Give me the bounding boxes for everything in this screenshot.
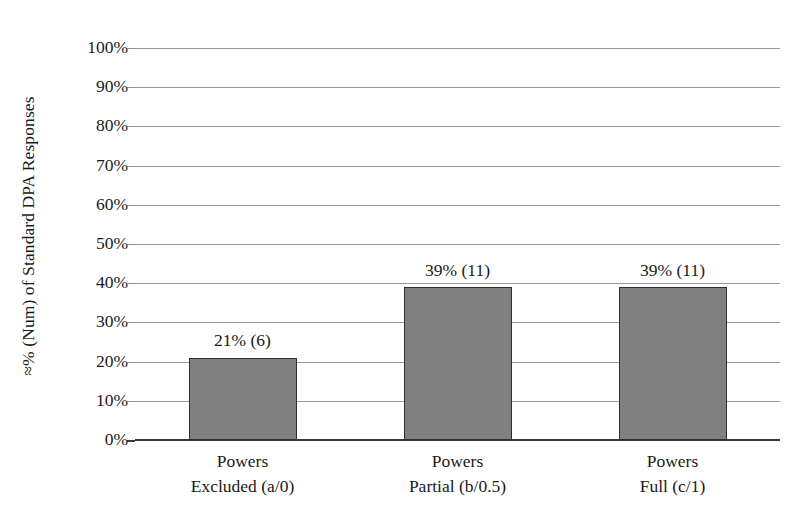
y-axis-tick-mark xyxy=(127,362,135,363)
y-axis-tick-mark xyxy=(127,205,135,206)
x-axis-category-label-line: Powers xyxy=(565,449,780,474)
y-axis-tick-label: 50% xyxy=(58,235,128,253)
x-axis-category-label-line: Powers xyxy=(135,449,350,474)
y-axis-tick-label: 80% xyxy=(58,118,128,136)
x-axis-category-label-line: Full (c/1) xyxy=(565,474,780,499)
y-axis-tick-label: 90% xyxy=(58,78,128,96)
y-axis-tick-label: 20% xyxy=(58,353,128,371)
x-axis-category-label-line: Excluded (a/0) xyxy=(135,474,350,499)
y-axis-tick-mark xyxy=(127,401,135,402)
y-axis-tick-mark xyxy=(127,166,135,167)
y-axis-tick-mark xyxy=(127,244,135,245)
y-axis-tick-label: 100% xyxy=(58,39,128,57)
y-axis-tick-mark xyxy=(127,322,135,323)
y-axis-tick-label: 60% xyxy=(58,196,128,214)
x-axis-category-label: PowersPartial (b/0.5) xyxy=(350,449,565,499)
x-axis-category-label-line: Partial (b/0.5) xyxy=(350,474,565,499)
x-axis-category-label: PowersFull (c/1) xyxy=(565,449,780,499)
y-axis-tick-label: 70% xyxy=(58,157,128,175)
bar[interactable] xyxy=(404,287,512,440)
bar-chart: ≈% (Num) of Standard DPA Responses 100%9… xyxy=(0,0,811,522)
bar-slot: 39% (11) xyxy=(565,48,780,440)
x-axis-category-label: PowersExcluded (a/0) xyxy=(135,449,350,499)
plot-area: 21% (6)39% (11)39% (11) xyxy=(135,48,780,440)
y-axis-tick-label: 0% xyxy=(58,431,128,449)
y-axis-tick-label: 10% xyxy=(58,392,128,410)
x-axis-category-labels: PowersExcluded (a/0)PowersPartial (b/0.5… xyxy=(135,449,780,509)
bar-slot: 39% (11) xyxy=(350,48,565,440)
bar-value-label: 39% (11) xyxy=(425,262,490,280)
y-axis-tick-mark xyxy=(127,126,135,127)
bar[interactable] xyxy=(189,358,297,440)
y-axis-tick-mark xyxy=(127,87,135,88)
y-axis-title: ≈% (Num) of Standard DPA Responses xyxy=(8,16,48,456)
y-axis-tick-mark xyxy=(127,283,135,284)
y-axis-tick-mark xyxy=(127,48,135,49)
y-axis-tick-mark xyxy=(127,440,135,442)
y-axis-tick-labels: 100%90%80%70%60%50%40%30%20%10%0% xyxy=(52,48,128,440)
y-axis-tick-label: 40% xyxy=(58,274,128,292)
bar-value-label: 21% (6) xyxy=(214,332,271,350)
bar-value-label: 39% (11) xyxy=(640,262,705,280)
y-axis-tick-label: 30% xyxy=(58,314,128,332)
bar[interactable] xyxy=(619,287,727,440)
x-axis-category-label-line: Powers xyxy=(350,449,565,474)
bar-slot: 21% (6) xyxy=(135,48,350,440)
